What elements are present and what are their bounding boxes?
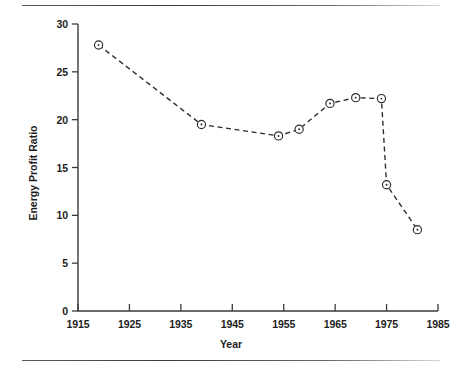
series-line <box>99 45 418 230</box>
data-point-center-dot <box>386 184 388 186</box>
series-markers <box>94 41 421 234</box>
x-axis-title: Year <box>0 338 462 350</box>
y-tick-label: 15 <box>36 162 68 174</box>
x-axis-ticks <box>78 304 438 311</box>
y-tick-label: 30 <box>36 18 68 30</box>
x-tick-label: 1985 <box>427 318 450 330</box>
x-tick-label: 1925 <box>118 318 141 330</box>
data-point-center-dot <box>98 44 100 46</box>
data-point-center-dot <box>278 135 280 137</box>
axis-spines <box>78 24 438 311</box>
y-axis-title: Energy Profit Ratio <box>27 93 39 253</box>
data-point-center-dot <box>200 124 202 126</box>
data-point-center-dot <box>355 97 357 99</box>
x-tick-label: 1945 <box>221 318 244 330</box>
data-point-center-dot <box>298 128 300 130</box>
y-tick-label: 5 <box>36 257 68 269</box>
y-axis-ticks <box>72 24 78 311</box>
x-tick-label: 1955 <box>272 318 295 330</box>
x-tick-label: 1975 <box>375 318 398 330</box>
line-chart-plot <box>0 0 462 372</box>
y-tick-label: 0 <box>36 305 68 317</box>
data-series <box>94 41 421 234</box>
y-tick-label: 20 <box>36 114 68 126</box>
y-tick-label: 25 <box>36 66 68 78</box>
x-tick-label: 1935 <box>169 318 192 330</box>
data-point-center-dot <box>329 102 331 104</box>
x-tick-label: 1965 <box>324 318 347 330</box>
x-tick-label: 1915 <box>67 318 90 330</box>
data-point-center-dot <box>416 229 418 231</box>
y-tick-label: 10 <box>36 209 68 221</box>
data-point-center-dot <box>380 98 382 100</box>
chart-figure: 051015202530 191519251935194519551965197… <box>0 0 462 372</box>
